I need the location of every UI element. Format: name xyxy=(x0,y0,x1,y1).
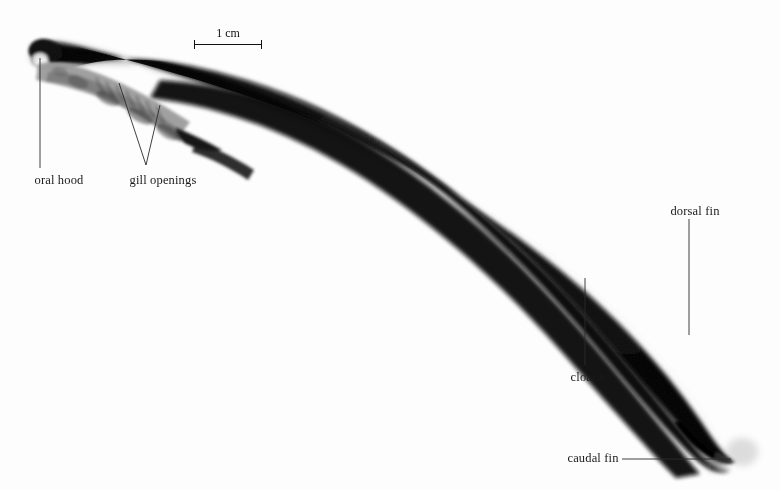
scale-bar-cap-left xyxy=(194,40,195,49)
scale-bar-label: 1 cm xyxy=(194,27,262,39)
label-oral-hood: oral hood xyxy=(35,174,84,187)
label-caudal-fin: caudal fin xyxy=(567,452,618,465)
specimen-figure: 1 cm oral hood gill openings cloaca dors… xyxy=(0,0,780,490)
label-dorsal-fin: dorsal fin xyxy=(670,205,719,218)
lancelet-specimen-photo xyxy=(0,0,780,490)
scale-bar: 1 cm xyxy=(194,27,262,49)
specimen-body xyxy=(0,0,780,490)
scale-bar-rule xyxy=(194,44,262,45)
label-gill-openings: gill openings xyxy=(130,174,197,187)
scale-bar-cap-right xyxy=(261,40,262,49)
label-cloaca: cloaca xyxy=(571,371,604,384)
